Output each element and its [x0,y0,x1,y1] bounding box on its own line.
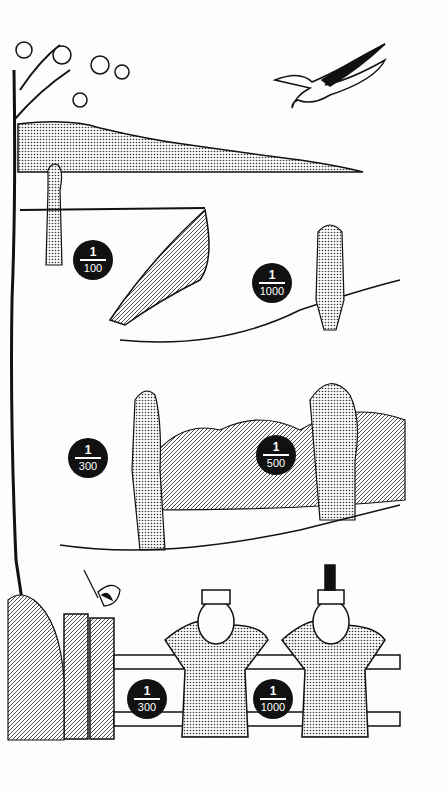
photographer-distant [46,164,62,265]
badge-numerator: 1 [269,269,276,281]
shutter-badge-5: 1 300 [127,679,167,719]
fence-post-2 [90,618,114,739]
badge-numerator: 1 [270,685,277,697]
shutter-badge-2: 1 1000 [252,263,292,303]
badge-denominator: 300 [79,461,97,472]
illustration-scene [0,0,447,792]
hill [18,122,363,172]
photographer-far [316,225,344,330]
songbird [84,570,120,606]
badge-divider [134,698,160,700]
badge-numerator: 1 [144,685,151,697]
badge-divider [259,282,285,284]
fence-post-1 [64,614,88,739]
badge-denominator: 100 [84,263,102,274]
badge-divider [80,259,106,261]
photographer-mid-left [132,391,165,550]
blossoms [16,42,129,107]
badge-numerator: 1 [273,441,280,453]
badge-divider [263,454,289,456]
badge-denominator: 500 [267,458,285,469]
badge-divider [260,698,286,700]
badge-numerator: 1 [90,246,97,258]
shutter-badge-4: 1 500 [256,435,296,475]
shutter-badge-3: 1 300 [68,438,108,478]
badge-denominator: 1000 [261,702,285,713]
blossom-bush [110,210,209,325]
badge-numerator: 1 [85,444,92,456]
shrub-left [8,595,64,740]
badge-denominator: 300 [138,702,156,713]
shutter-badge-1: 1 100 [73,240,113,280]
shutter-badge-6: 1 1000 [253,679,293,719]
seagull [275,44,385,108]
photographer-front-right [282,565,385,737]
badge-divider [75,457,101,459]
badge-denominator: 1000 [260,286,284,297]
